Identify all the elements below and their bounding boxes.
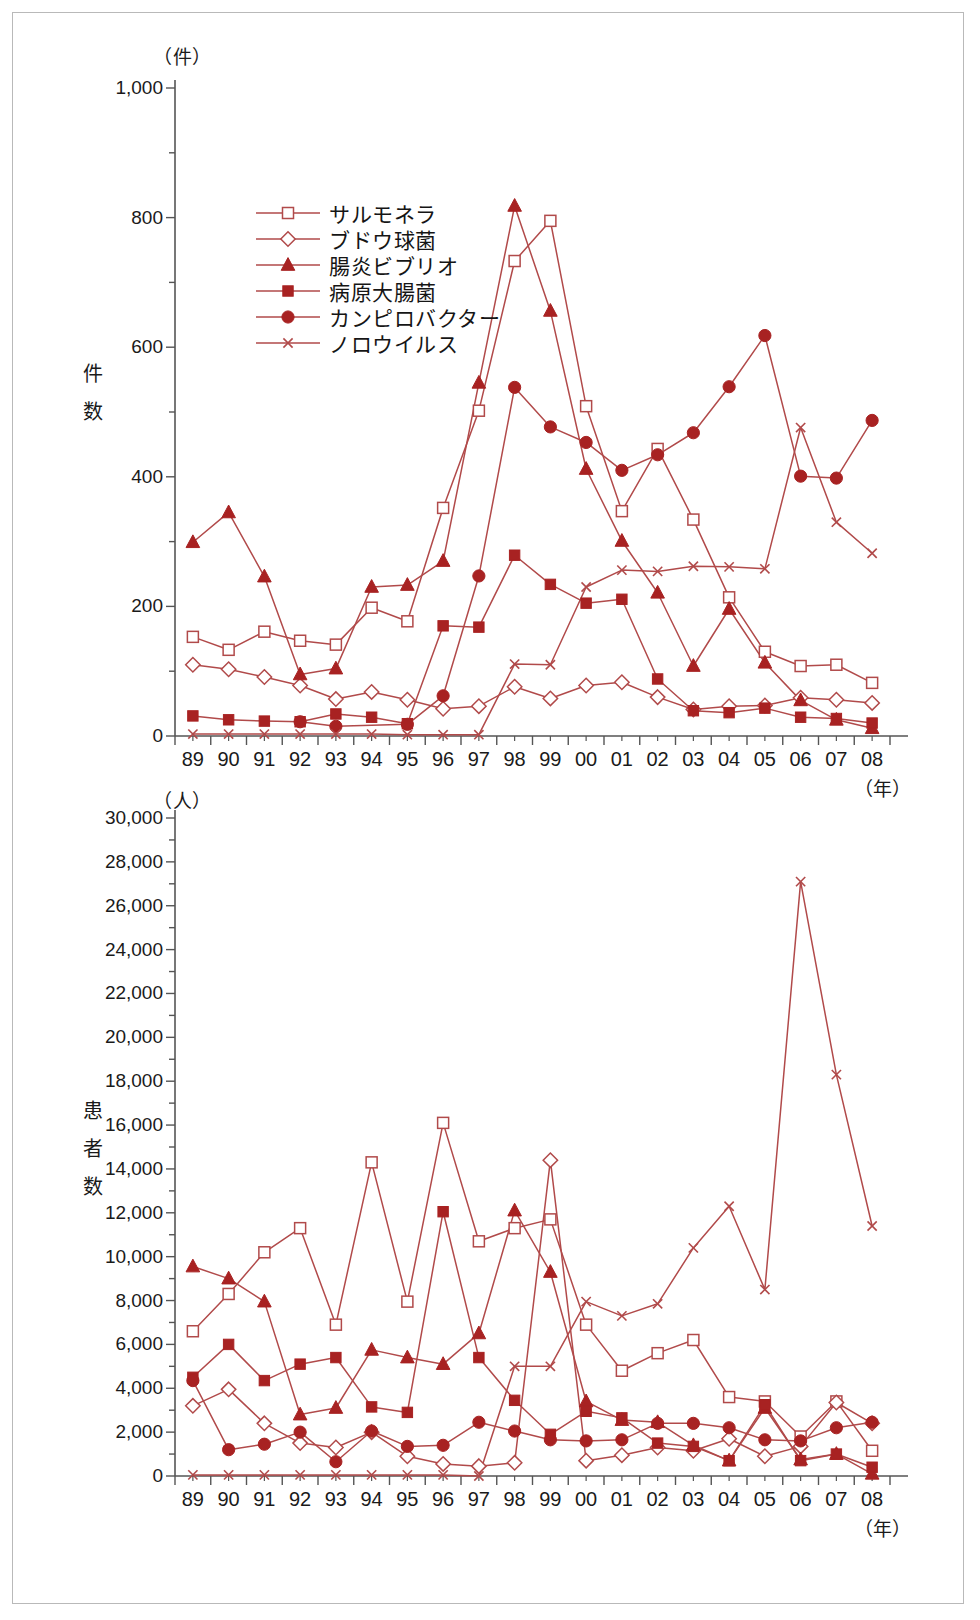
- data-point: [472, 1326, 486, 1339]
- data-point: [723, 381, 735, 393]
- y-tick-label: 14,000: [55, 1158, 163, 1180]
- data-point: [365, 1342, 379, 1355]
- y-tick-label: 20,000: [55, 1026, 163, 1048]
- legend-item-ecoli: 病原大腸菌: [255, 278, 500, 304]
- data-point: [223, 644, 234, 655]
- data-point: [617, 594, 627, 604]
- data-point: [258, 569, 272, 582]
- data-point: [579, 462, 593, 475]
- data-point: [400, 693, 414, 707]
- data-point: [724, 1455, 734, 1465]
- y-tick-label: 0: [55, 1465, 163, 1487]
- data-point: [615, 1448, 629, 1462]
- data-point: [507, 1456, 521, 1470]
- legend-item-vibrio: 腸炎ビブリオ: [255, 252, 500, 278]
- data-point: [509, 256, 520, 267]
- data-point: [581, 401, 592, 412]
- x-tick-label: 00: [575, 1488, 597, 1511]
- x-tick-label: 01: [611, 748, 633, 771]
- data-point: [830, 472, 842, 484]
- data-point: [652, 674, 662, 684]
- data-point: [364, 685, 378, 699]
- data-point: [187, 631, 198, 642]
- plot-area: [0, 0, 980, 810]
- series-line: [300, 336, 872, 727]
- data-point: [582, 582, 591, 591]
- data-point: [580, 1435, 592, 1447]
- data-point: [617, 1413, 627, 1423]
- data-point: [867, 677, 878, 688]
- data-point: [186, 1259, 200, 1272]
- data-point: [544, 1434, 556, 1446]
- data-point: [867, 1445, 878, 1456]
- data-point: [473, 1236, 484, 1247]
- data-point: [829, 693, 843, 707]
- x-tick-label: 99: [539, 1488, 561, 1511]
- data-point: [223, 1288, 234, 1299]
- y-axis-title-char: 数: [78, 1168, 108, 1206]
- data-point: [188, 711, 198, 721]
- x-tick-label: 96: [432, 1488, 454, 1511]
- y-tick-label: 8,000: [55, 1290, 163, 1312]
- data-point: [366, 1157, 377, 1168]
- data-point: [759, 329, 771, 341]
- data-point: [581, 1406, 591, 1416]
- y-tick-label: 24,000: [55, 939, 163, 961]
- data-point: [652, 1348, 663, 1359]
- x-tick-label: 00: [575, 748, 597, 771]
- data-point: [295, 635, 306, 646]
- data-point: [259, 1375, 269, 1385]
- legend-label: ノロウイルス: [321, 328, 458, 358]
- data-point: [687, 427, 699, 439]
- data-point: [257, 670, 271, 684]
- y-tick-label: 800: [55, 207, 163, 229]
- data-point: [652, 1438, 662, 1448]
- x-tick-label: 91: [253, 748, 275, 771]
- data-point: [581, 598, 591, 608]
- data-point: [580, 436, 592, 448]
- y-tick-label: 400: [55, 466, 163, 488]
- data-point: [472, 699, 486, 713]
- data-point: [723, 1422, 735, 1434]
- data-point: [187, 1326, 198, 1337]
- series-line: [193, 1381, 872, 1462]
- data-point: [795, 712, 805, 722]
- series-line: [193, 882, 872, 1476]
- data-point: [725, 1202, 734, 1211]
- data-point: [759, 1434, 771, 1446]
- data-point: [366, 602, 377, 613]
- data-point: [293, 678, 307, 692]
- y-tick-label: 1,000: [55, 77, 163, 99]
- data-point: [831, 713, 841, 723]
- data-point: [795, 470, 807, 482]
- data-point: [329, 1440, 343, 1454]
- legend-marker-open-diamond-icon: [255, 228, 321, 250]
- data-point: [544, 304, 558, 317]
- data-point: [330, 1319, 341, 1330]
- data-point: [616, 464, 628, 476]
- data-point: [615, 675, 629, 689]
- x-tick-label: 94: [361, 748, 383, 771]
- data-point: [402, 1407, 412, 1417]
- legend-marker-filled-triangle-icon: [255, 254, 321, 276]
- x-tick-label: 98: [504, 1488, 526, 1511]
- data-point: [579, 1394, 593, 1407]
- x-tick-label: 93: [325, 1488, 347, 1511]
- data-point: [436, 554, 450, 567]
- y-tick-label: 28,000: [55, 851, 163, 873]
- data-point: [259, 1247, 270, 1258]
- data-point: [579, 1453, 593, 1467]
- x-tick-label: 07: [825, 748, 847, 771]
- data-point: [688, 514, 699, 525]
- data-point: [186, 535, 200, 548]
- data-point: [473, 405, 484, 416]
- y-axis-title-char: 件: [78, 355, 108, 393]
- data-point: [295, 1223, 306, 1234]
- data-point: [295, 1359, 305, 1369]
- data-point: [401, 1440, 413, 1452]
- y-axis-title-char: 数: [78, 393, 108, 431]
- data-point: [688, 1441, 698, 1451]
- data-point: [329, 1401, 343, 1414]
- x-tick-label: 97: [468, 1488, 490, 1511]
- y-tick-label: 6,000: [55, 1333, 163, 1355]
